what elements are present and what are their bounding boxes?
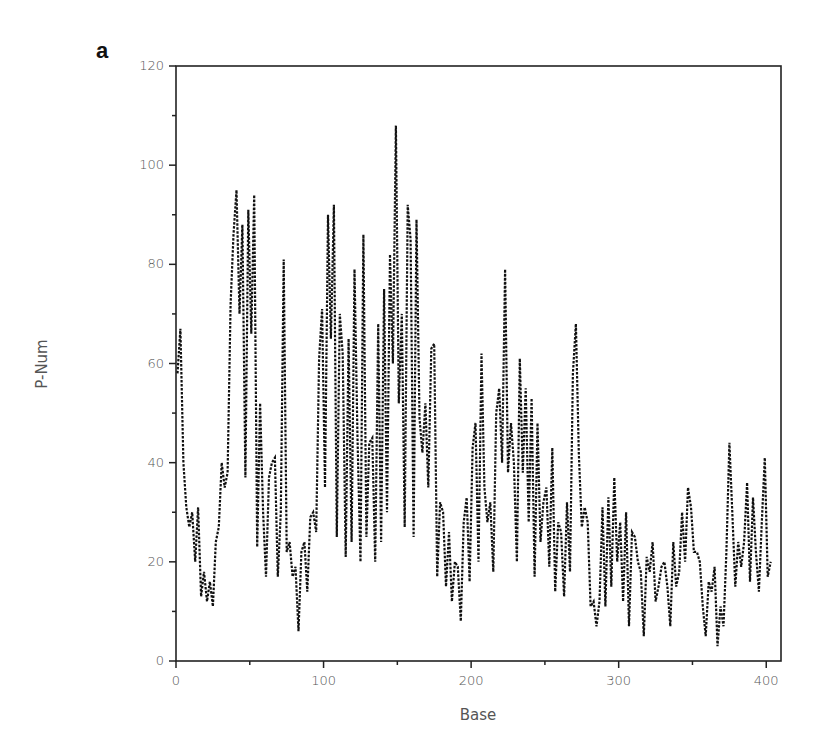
x-tick-label: 200 [459,673,484,688]
y-tick-label: 120 [139,58,164,73]
x-tick-label: 0 [172,673,180,688]
y-tick-label: 0 [156,653,164,668]
data-series-line [178,126,771,647]
line-chart: 0100200300400 020406080100120 Base P-Num [0,0,821,745]
x-tick-label: 300 [606,673,631,688]
x-axis: 0100200300400 [172,661,779,688]
y-tick-label: 20 [147,554,164,569]
x-tick-label: 100 [311,673,336,688]
y-axis-label: P-Num [33,339,51,388]
y-tick-label: 60 [147,356,164,371]
y-axis: 020406080100120 [139,58,176,668]
y-tick-label: 40 [147,455,164,470]
y-tick-label: 80 [147,256,164,271]
y-tick-label: 100 [139,157,164,172]
x-axis-label: Base [460,706,497,724]
x-tick-label: 400 [754,673,779,688]
